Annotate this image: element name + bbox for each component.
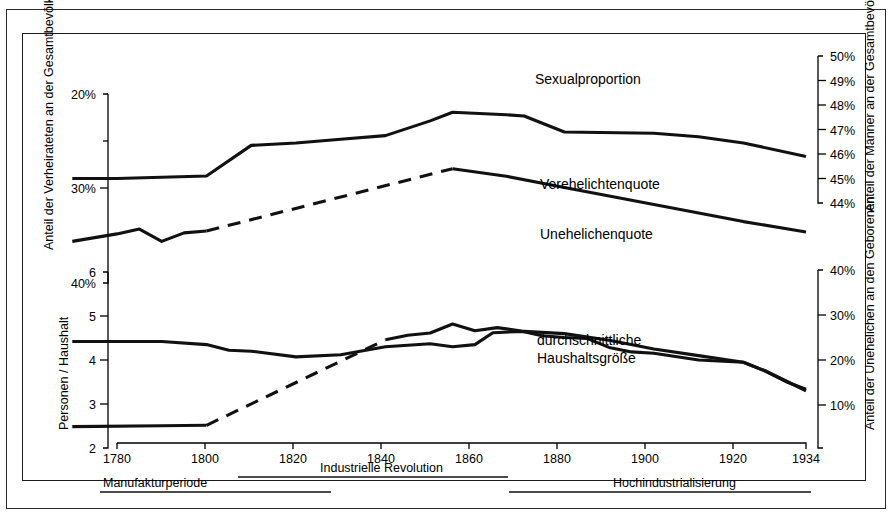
chart-canvas: 20% 30% 40% Anteil der Verheirateten an … (0, 0, 894, 517)
xtick-1920: 1920 (719, 452, 747, 466)
series-label-unehelichenquote: Unehelichenquote (540, 226, 653, 242)
figure-root: 20% 30% 40% Anteil der Verheirateten an … (0, 0, 894, 517)
ytick-right-top-48: 48% (830, 99, 855, 113)
series-label-sexualproportion: Sexualproportion (535, 71, 641, 87)
ytick-left-bottom-4: 4 (89, 354, 96, 368)
ytick-left-top-30: 30% (71, 182, 96, 196)
axis-title-left-bottom: Personen / Haushalt (57, 316, 71, 430)
xtick-1820: 1820 (279, 452, 307, 466)
ytick-left-bottom-5: 5 (89, 310, 96, 324)
ytick-left-top-20: 20% (71, 88, 96, 102)
axis-right-top: 50% 49% 48% 47% 46% 45% 44% Anteil der M… (818, 0, 877, 212)
axis-x: 1780 1800 1820 1840 1860 1880 1900 1920 … (103, 443, 820, 466)
xtick-1780: 1780 (103, 452, 131, 466)
ytick-right-top-44: 44% (830, 197, 855, 211)
ytick-right-bottom-30: 30% (830, 309, 855, 323)
axis-left-top: 20% 30% 40% Anteil der Verheirateten an … (42, 0, 108, 291)
series-path-verehelichtenquote (207, 169, 453, 231)
series-path-unehelichenquote (72, 425, 206, 426)
ytick-left-bottom-6: 6 (89, 266, 96, 280)
xtick-1900: 1900 (631, 452, 659, 466)
series-path-verehelichtenquote (72, 229, 206, 241)
xtick-1934: 1934 (792, 452, 820, 466)
ytick-left-bottom-3: 3 (89, 398, 96, 412)
axis-title-right-bottom: Anteil der Unehelichen an den Geborenen (863, 196, 877, 430)
series-path-sexualproportion (72, 112, 806, 178)
axis-right-bottom: 40% 30% 20% 10% Anteil der Unehelichen a… (818, 196, 877, 448)
period-label-industrielle-revolution: Industrielle Revolution (320, 461, 443, 475)
axis-title-left-top: Anteil der Verheirateten an der Gesamtbe… (42, 0, 56, 250)
period-label-manufakturperiode: Manufakturperiode (103, 476, 207, 490)
ytick-right-top-47: 47% (830, 124, 855, 138)
ytick-right-top-50: 50% (830, 50, 855, 64)
series-label-haushaltsgroesse-2: Haushaltsgröße (537, 350, 636, 366)
ytick-right-bottom-20: 20% (830, 354, 855, 368)
xtick-1880: 1880 (543, 452, 571, 466)
ytick-right-bottom-10: 10% (830, 399, 855, 413)
ytick-right-top-49: 49% (830, 75, 855, 89)
ytick-right-bottom-40: 40% (830, 264, 855, 278)
period-label-hochindustrialisierung: Hochindustrialisierung (613, 476, 736, 490)
ytick-right-top-45: 45% (830, 173, 855, 187)
xtick-1860: 1860 (455, 452, 483, 466)
series-label-verehelichtenquote: Verehelichtenquote (540, 176, 660, 192)
data-curves (72, 112, 806, 426)
ytick-right-top-46: 46% (830, 148, 855, 162)
series-label-haushaltsgroesse-1: durchschnittliche (537, 332, 641, 348)
axis-title-right-top: Anteil der Männer an der Gesamtbevölkeru… (863, 0, 877, 212)
xtick-1800: 1800 (191, 452, 219, 466)
ytick-left-bottom-2: 2 (89, 442, 96, 456)
